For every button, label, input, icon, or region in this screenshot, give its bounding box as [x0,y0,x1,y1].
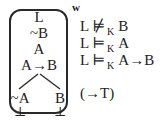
statement-lhs: L [80,52,89,68]
statement-not-entails-B: L⊭KB [80,19,128,34]
statement-rhs: A→B [118,52,154,68]
rule-label: (→T) [80,86,114,101]
statement-rhs: B [118,18,128,34]
left-closure-bottom-icon: ⊥ [14,104,26,119]
statement-rhs: A [118,35,129,51]
statement-lhs: L [80,18,89,34]
trunk-node-A-implies-B: A→B [21,58,57,73]
trunk-node-not-B: ~B [30,26,48,41]
statement-entails-A-implies-B: L⊨KA→B [80,53,154,68]
models-icon: ⊨ [92,36,105,51]
not-models-icon: ⊭ [92,19,105,34]
statement-subscript: K [107,60,114,71]
trunk-node-L: L [34,10,43,25]
models-icon: ⊨ [92,53,105,68]
world-label: w [72,2,80,13]
statement-lhs: L [80,35,89,51]
trunk-node-A: A [34,42,45,57]
right-closure-bottom-icon: ⊥ [54,104,66,119]
statement-entails-A: L⊨KA [80,36,129,51]
